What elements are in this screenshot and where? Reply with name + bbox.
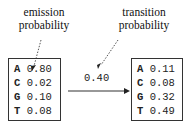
transition-pointer	[101, 40, 118, 65]
transition-value: 0.40	[84, 72, 109, 84]
emission-row: T 0.49	[137, 104, 182, 118]
emission-row: A 0.80	[14, 62, 60, 76]
emission-row: A 0.11	[137, 62, 182, 76]
emission-row: C 0.08	[137, 76, 182, 90]
transition-arrowhead	[124, 88, 130, 94]
state-2-emission-box: A 0.11 C 0.08 G 0.32 T 0.49	[131, 58, 183, 121]
state-1-emission-box: A 0.80 C 0.02 G 0.10 T 0.08	[8, 58, 61, 121]
emission-row: G 0.32	[137, 90, 182, 104]
emission-row: T 0.08	[14, 104, 60, 118]
transition-label-line2: probability	[112, 19, 176, 32]
emission-label-line1: emission	[14, 6, 74, 19]
emission-label-line2: probability	[14, 19, 74, 32]
emission-probability-label: emission probability	[14, 6, 74, 32]
transition-label-line1: transition	[112, 6, 176, 19]
transition-pointer-arrowhead	[97, 63, 101, 69]
emission-row: G 0.10	[14, 90, 60, 104]
emission-row: C 0.02	[14, 76, 60, 90]
transition-probability-label: transition probability	[112, 6, 176, 32]
